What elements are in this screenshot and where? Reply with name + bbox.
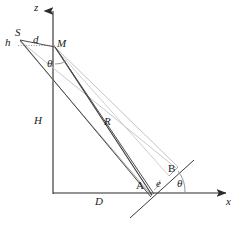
label-point-a: A: [136, 180, 144, 191]
label-offset-d: d: [33, 34, 39, 45]
label-mirror-m: M: [57, 38, 66, 49]
label-axis-z: z: [34, 2, 38, 13]
light-ray-s-to-b-outer: [20, 41, 176, 168]
light-ray-m-to-b-lower: [55, 48, 169, 176]
label-axis-x: x: [226, 196, 231, 207]
label-distance-D: D: [95, 196, 103, 207]
label-source-s: S: [15, 27, 21, 38]
label-height-h: h: [5, 37, 11, 48]
label-point-b: B: [168, 163, 175, 174]
light-ray-m-to-b-upper: [55, 47, 178, 167]
label-range-R: R: [104, 116, 111, 127]
geometry-figure: S h d M θ H R D A B e θ z x: [0, 0, 237, 226]
label-theta-bottom: θ: [177, 178, 182, 189]
label-height-H: H: [34, 115, 42, 126]
label-eccentricity-e: e: [156, 178, 161, 189]
label-theta-top: θ: [47, 58, 52, 69]
